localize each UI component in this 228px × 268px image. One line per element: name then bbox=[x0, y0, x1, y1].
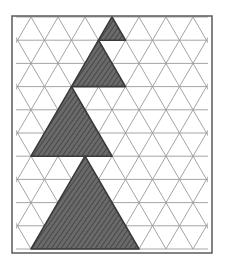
triangle-grid-figure bbox=[0, 0, 228, 268]
